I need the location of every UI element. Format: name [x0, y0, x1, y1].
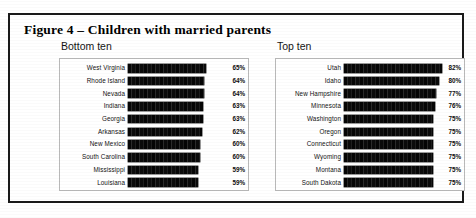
bar-track	[128, 87, 229, 100]
bar-value-label: 75%	[445, 116, 461, 122]
bar-track	[344, 138, 445, 151]
bar-track	[128, 100, 229, 113]
bar-category-label: New Hampshire	[278, 91, 344, 97]
bar-category-label: Louisiana	[62, 180, 128, 186]
bar-row: Indiana63%	[62, 100, 245, 113]
bar-value-label: 75%	[445, 180, 461, 186]
bar-fill	[344, 77, 439, 86]
bar-value-label: 65%	[229, 65, 245, 71]
bar-value-label: 75%	[445, 129, 461, 135]
bar-value-label: 59%	[229, 180, 245, 186]
bar-row: South Dakota75%	[278, 176, 461, 189]
bar-category-label: Wyoming	[278, 154, 344, 160]
bar-value-label: 80%	[445, 78, 461, 84]
bar-value-label: 63%	[229, 116, 245, 122]
bar-track	[344, 100, 445, 113]
bar-category-label: Connecticut	[278, 141, 344, 147]
bar-value-label: 82%	[445, 65, 461, 71]
bar-category-label: Minnesota	[278, 103, 344, 109]
bar-track	[344, 176, 445, 189]
bar-track	[128, 113, 229, 126]
bar-category-label: Idaho	[278, 78, 344, 84]
bar-row: New Hampshire77%	[278, 87, 461, 100]
bar-value-label: 64%	[229, 91, 245, 97]
bar-list-bottom-ten: West Virginia65%Rhode Island64%Nevada64%…	[60, 61, 248, 190]
bar-row: Minnesota76%	[278, 100, 461, 113]
bar-fill	[128, 89, 204, 98]
bar-fill	[128, 178, 198, 187]
bar-track	[128, 75, 229, 88]
bar-fill	[128, 102, 203, 111]
bar-category-label: Rhode Island	[62, 78, 128, 84]
bar-value-label: 64%	[229, 78, 245, 84]
bar-category-label: Washington	[278, 116, 344, 122]
bar-track	[344, 75, 445, 88]
bar-category-label: West Virginia	[62, 65, 128, 71]
bar-fill	[128, 128, 202, 137]
bar-fill	[344, 128, 433, 137]
bar-track	[344, 87, 445, 100]
bar-fill	[344, 153, 433, 162]
bar-value-label: 63%	[229, 103, 245, 109]
bar-category-label: Mississippi	[62, 167, 128, 173]
bar-row: Washington75%	[278, 113, 461, 126]
bar-fill	[128, 140, 200, 149]
chart-title-bottom-ten: Bottom ten	[61, 40, 112, 52]
bar-row: Georgia63%	[62, 113, 245, 126]
bar-list-top-ten: Utah82%Idaho80%New Hampshire77%Minnesota…	[276, 61, 464, 190]
bar-row: Connecticut75%	[278, 138, 461, 151]
bar-track	[128, 164, 229, 177]
page-title: Figure 4 – Children with married parents	[24, 22, 271, 38]
bar-row: Mississippi59%	[62, 164, 245, 177]
bar-fill	[128, 77, 204, 86]
bar-value-label: 62%	[229, 129, 245, 135]
bar-category-label: Arkansas	[62, 129, 128, 135]
bar-value-label: 76%	[445, 103, 461, 109]
bar-row: Wyoming75%	[278, 151, 461, 164]
bar-row: Rhode Island64%	[62, 75, 245, 88]
bar-fill	[344, 89, 436, 98]
bar-fill	[344, 178, 433, 187]
bar-track	[128, 62, 229, 75]
chart-panel-bottom-ten: Bottom ten West Virginia65%Rhode Island6…	[59, 58, 249, 191]
chart-title-top-ten: Top ten	[277, 40, 311, 52]
bar-category-label: Oregon	[278, 129, 344, 135]
bar-row: South Carolina60%	[62, 151, 245, 164]
bar-track	[344, 62, 445, 75]
bar-row: Idaho80%	[278, 75, 461, 88]
bar-fill	[128, 166, 198, 175]
bar-row: New Mexico60%	[62, 138, 245, 151]
bar-fill	[128, 115, 203, 124]
bar-value-label: 75%	[445, 154, 461, 160]
bar-category-label: South Carolina	[62, 154, 128, 160]
bar-value-label: 75%	[445, 141, 461, 147]
bar-track	[344, 151, 445, 164]
bar-fill	[344, 140, 433, 149]
bar-row: Louisiana59%	[62, 176, 245, 189]
bar-row: Utah82%	[278, 62, 461, 75]
bar-category-label: Georgia	[62, 116, 128, 122]
bar-fill	[128, 64, 206, 73]
bar-category-label: Indiana	[62, 103, 128, 109]
bar-value-label: 60%	[229, 154, 245, 160]
bar-fill	[344, 166, 433, 175]
bar-value-label: 60%	[229, 141, 245, 147]
bar-category-label: Nevada	[62, 91, 128, 97]
bar-value-label: 77%	[445, 91, 461, 97]
bar-value-label: 75%	[445, 167, 461, 173]
bar-fill	[128, 153, 200, 162]
bar-track	[128, 126, 229, 139]
bar-track	[344, 113, 445, 126]
figure-frame: Figure 4 – Children with married parents…	[8, 13, 464, 203]
bar-category-label: Utah	[278, 65, 344, 71]
chart-panel-top-ten: Top ten Utah82%Idaho80%New Hampshire77%M…	[275, 58, 465, 191]
bar-track	[344, 164, 445, 177]
bar-fill	[344, 64, 442, 73]
bar-category-label: Montana	[278, 167, 344, 173]
bar-row: Arkansas62%	[62, 126, 245, 139]
bar-category-label: South Dakota	[278, 180, 344, 186]
bar-track	[128, 151, 229, 164]
bar-track	[128, 138, 229, 151]
bar-value-label: 59%	[229, 167, 245, 173]
bar-track	[128, 176, 229, 189]
